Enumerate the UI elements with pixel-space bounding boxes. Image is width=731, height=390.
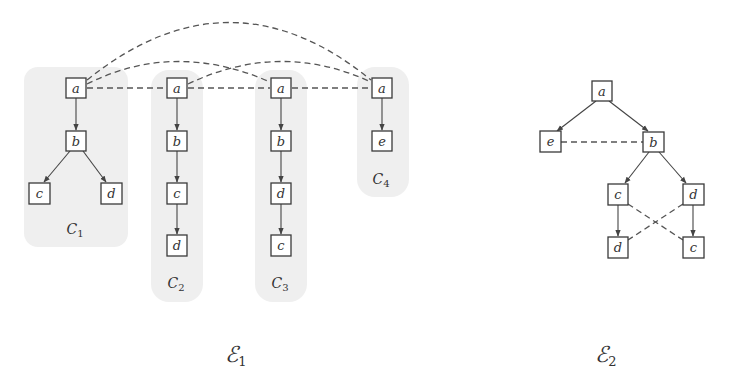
svg-text:d: d [689, 187, 697, 202]
svg-text:e: e [378, 134, 386, 149]
node-a: a [372, 78, 392, 98]
svg-text:c: c [614, 187, 622, 202]
node-a: a [66, 78, 86, 98]
node-c: c [167, 183, 187, 204]
svg-text:a: a [277, 81, 285, 96]
node-d-lower: d [608, 237, 628, 258]
node-c: c [29, 183, 50, 204]
svg-text:d: d [173, 238, 181, 253]
node-e: e [540, 131, 561, 152]
svg-text:b: b [649, 135, 657, 150]
svg-text:a: a [378, 81, 386, 96]
svg-text:e: e [547, 134, 555, 149]
dashed-arc-c1a-c4a [87, 23, 371, 81]
node-c: c [271, 235, 291, 256]
ensemble-label-e1: ℰ1 [225, 342, 246, 369]
node-c-lower: c [683, 237, 704, 258]
svg-text:a: a [598, 84, 606, 99]
edge-b-d [659, 152, 686, 183]
node-d: d [271, 183, 291, 204]
svg-text:c: c [36, 186, 44, 201]
node-c: c [608, 184, 628, 205]
svg-text:d: d [107, 186, 115, 201]
ensemble-label-e2: ℰ2 [595, 342, 616, 369]
ensemble-e2: a e b c d d c [540, 81, 704, 258]
svg-text:a: a [72, 81, 80, 96]
e1-dashed-links [87, 23, 371, 89]
svg-text:c: c [277, 238, 285, 253]
edge-b-c [625, 152, 649, 183]
node-a: a [167, 78, 187, 98]
svg-text:b: b [173, 134, 181, 149]
node-b: b [66, 131, 86, 151]
node-d: d [683, 184, 704, 205]
svg-text:c: c [173, 186, 181, 201]
svg-text:d: d [614, 240, 622, 255]
svg-text:b: b [277, 134, 285, 149]
node-d: d [167, 235, 187, 256]
node-a: a [271, 78, 291, 98]
svg-text:c: c [690, 240, 698, 255]
node-e: e [372, 131, 392, 151]
edge-a-e [557, 101, 596, 131]
svg-text:d: d [277, 186, 285, 201]
node-a: a [592, 81, 612, 101]
node-b: b [643, 132, 664, 152]
edge-a-b [609, 101, 648, 131]
node-b: b [167, 131, 187, 151]
node-d: d [101, 183, 122, 204]
svg-text:a: a [173, 81, 181, 96]
node-b: b [271, 131, 291, 151]
svg-text:b: b [72, 134, 80, 149]
diagram-canvas: a b c d C1 a b c d C2 a b d c C3 a e C4 [0, 0, 731, 390]
